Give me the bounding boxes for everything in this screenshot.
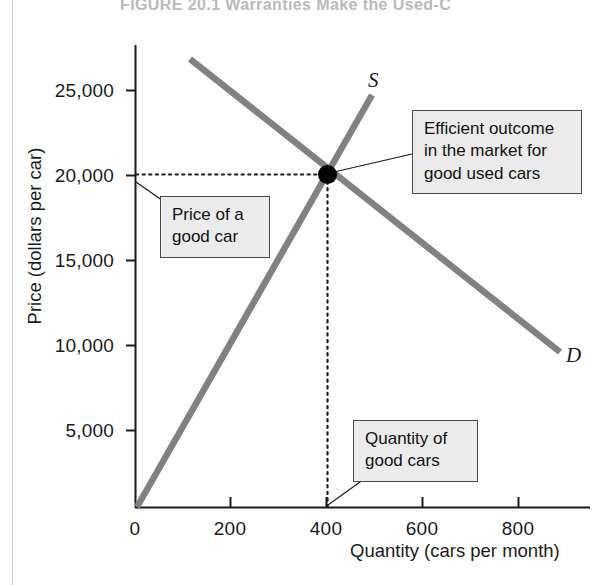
x-tick-label-200: 200	[195, 518, 265, 540]
x-axis	[135, 497, 590, 508]
annotation-quantity-of-good-cars: Quantity of good cars	[353, 420, 478, 482]
supply-curve-label: S	[368, 68, 379, 93]
x-tick-label-0: 0	[100, 518, 170, 540]
figure-container: FIGURE 20.1 Warranties Make the Used-C	[0, 0, 605, 585]
y-tick-label-5000: 5,000	[18, 420, 114, 442]
equilibrium-point	[318, 165, 337, 184]
x-tick-label-600: 600	[387, 518, 457, 540]
x-axis-title: Quantity (cars per month)	[350, 540, 560, 562]
annotation-price-of-a-good-car: Price of a good car	[160, 196, 270, 258]
y-axis	[126, 45, 136, 508]
y-tick-label-25000: 25,000	[18, 80, 114, 102]
leader-line-efficient	[334, 154, 412, 172]
x-tick-label-400: 400	[291, 518, 361, 540]
demand-curve-label: D	[566, 343, 581, 368]
x-tick-label-800: 800	[483, 518, 553, 540]
y-axis-title: Price (dollars per car)	[24, 106, 46, 366]
supply-curve	[137, 95, 372, 507]
annotation-efficient-outcome: Efficient outcome in the market for good…	[412, 110, 582, 194]
